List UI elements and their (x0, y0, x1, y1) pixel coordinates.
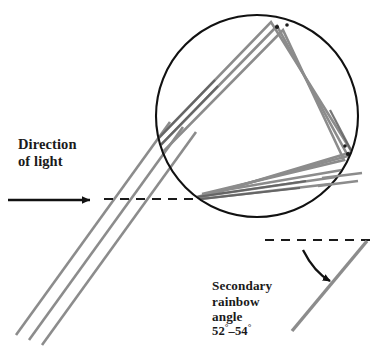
secondary-rainbow-exit-ray (292, 241, 367, 331)
diagram-canvas (0, 0, 378, 353)
angle-max-value: 54 (235, 324, 248, 338)
internal-ray-c (150, 30, 344, 194)
degree-symbol-max: ° (248, 322, 252, 332)
secondary-rainbow-angle-label: Secondary rainbow angle (212, 278, 272, 325)
reflection-point-top (275, 25, 279, 29)
direction-of-light-label: Direction of light (18, 136, 77, 170)
exit-ray-upper-2 (322, 173, 362, 178)
rainbow-ray-diagram: Direction of light Secondary rainbow ang… (0, 0, 378, 353)
reflection-point-top-2 (285, 23, 289, 27)
angle-indicator-arrow (303, 250, 330, 281)
rainbow-angle-value: 52°–54° (212, 324, 251, 339)
angle-min-value: 52 (212, 324, 225, 338)
degree-symbol-min: ° (225, 322, 229, 332)
reflection-point-right-2 (343, 144, 347, 148)
